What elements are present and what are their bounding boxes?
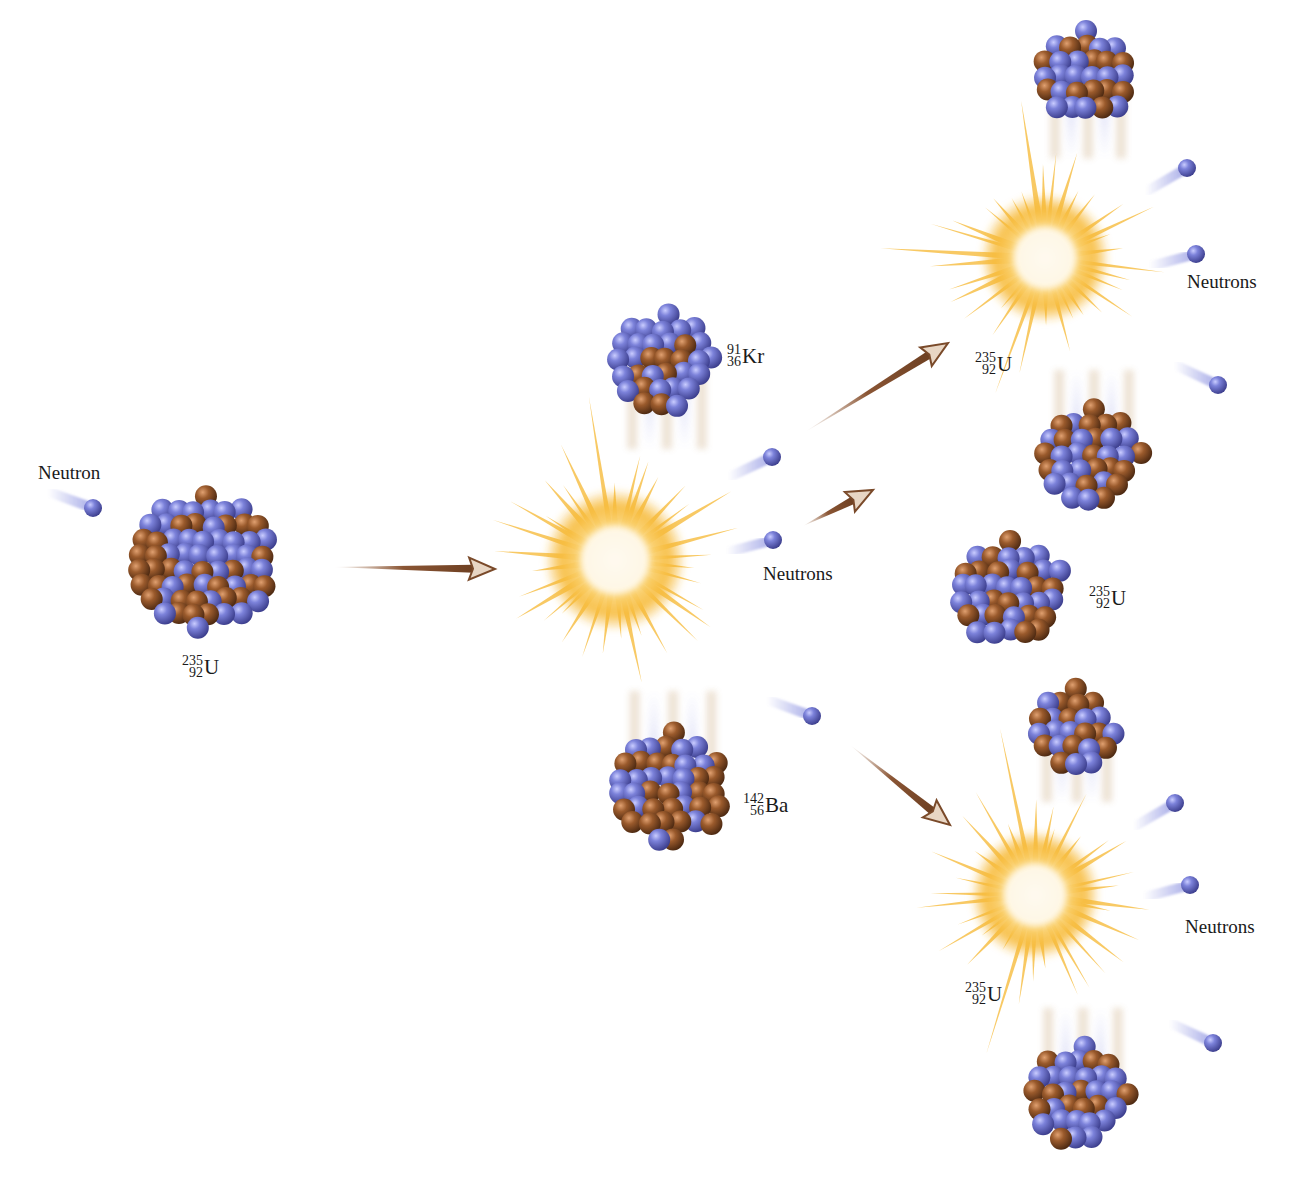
- proton: [1044, 473, 1066, 495]
- neutron-icon: [1187, 245, 1205, 263]
- bottom-neutron-1: [1133, 794, 1184, 827]
- proton: [983, 622, 1005, 644]
- arrow-to-middle-u235: [798, 480, 878, 536]
- neutron-icon: [763, 448, 781, 466]
- flash-center: [581, 526, 650, 595]
- proton: [666, 395, 688, 417]
- arrow-to-fission: [333, 556, 495, 580]
- top-neutron-3: [1174, 365, 1227, 394]
- element-symbol: U: [997, 353, 1012, 375]
- neutron-icon: [1178, 159, 1196, 177]
- neutron-icon: [1181, 876, 1199, 894]
- arrow-head: [845, 480, 878, 511]
- atomic-number: 56: [750, 805, 764, 817]
- top-neutron-1: [1145, 159, 1196, 192]
- middle-u235-nucleus: [950, 530, 1071, 644]
- arrow-shaft: [333, 563, 473, 573]
- label-neutrons-bottom: Neutrons: [1185, 916, 1255, 938]
- neutron-icon: [803, 707, 821, 725]
- neutron-icon: [1166, 794, 1184, 812]
- arrow-to-bottom-fission: [843, 736, 957, 833]
- arrow-shaft: [801, 497, 855, 530]
- proton: [648, 829, 670, 851]
- isotope-label-top-u235: 23592 U: [975, 352, 1012, 376]
- proton: [1032, 1113, 1054, 1135]
- element-symbol: Ba: [765, 794, 788, 816]
- proton: [1065, 753, 1087, 775]
- stage1-neutron-1: [728, 448, 781, 477]
- atomic-number: 92: [1096, 598, 1110, 610]
- top-neutron-2: [1150, 245, 1205, 266]
- stage1-neutron-3: [767, 700, 821, 725]
- neutron-icon: [1209, 376, 1227, 394]
- neutron-icon: [84, 499, 102, 517]
- label-neutrons-top: Neutrons: [1187, 271, 1257, 293]
- element-symbol: U: [1111, 587, 1126, 609]
- incoming-neutron: [48, 492, 102, 517]
- neutron-particle: [1023, 1080, 1045, 1102]
- atomic-number: 92: [972, 994, 986, 1006]
- atomic-number: 92: [982, 364, 996, 376]
- proton: [1046, 96, 1068, 118]
- atomic-number: 92: [189, 667, 203, 679]
- proton: [187, 617, 209, 639]
- top-fragment-upper: [1034, 20, 1134, 119]
- element-symbol: U: [987, 983, 1002, 1005]
- atomic-number: 36: [727, 356, 741, 368]
- arrow-shaft: [848, 742, 936, 815]
- top-fragment-lower: [1034, 398, 1152, 511]
- arrow-shaft: [803, 351, 932, 435]
- isotope-label-kr91: 9136 Kr: [727, 344, 764, 368]
- arrow-to-top-fission: [799, 334, 954, 442]
- isotope-label-initial-u235: 23592 U: [182, 655, 219, 679]
- arrow-head: [469, 558, 495, 580]
- bottom-neutron-2: [1144, 876, 1199, 897]
- proton: [1077, 489, 1099, 511]
- element-symbol: U: [204, 656, 219, 678]
- neutron-icon: [764, 531, 782, 549]
- initial-u235-nucleus: [128, 485, 277, 638]
- neutron-particle: [700, 813, 722, 835]
- isotope-label-ba142: 14256 Ba: [743, 793, 788, 817]
- isotope-label-bottom-u235: 23592 U: [965, 982, 1002, 1006]
- label-incoming-neutron: Neutron: [38, 462, 100, 484]
- flash-center: [1014, 227, 1077, 290]
- isotope-label-middle-u235: 23592 U: [1089, 586, 1126, 610]
- neutron-particle: [1050, 1128, 1072, 1150]
- bottom-neutron-3: [1169, 1023, 1222, 1052]
- proton: [154, 602, 176, 624]
- element-symbol: Kr: [742, 345, 764, 367]
- neutron-icon: [1204, 1034, 1222, 1052]
- stage1-neutron-2: [727, 531, 782, 552]
- label-neutrons-stage1: Neutrons: [763, 563, 833, 585]
- flash-center: [1004, 864, 1067, 927]
- fission-flash-bottom: [917, 728, 1150, 1054]
- proton: [1074, 97, 1096, 119]
- neutron-particle: [1014, 621, 1036, 643]
- fission-chain-diagram: Neutron Neutrons Neutrons Neutrons 23592…: [0, 0, 1300, 1177]
